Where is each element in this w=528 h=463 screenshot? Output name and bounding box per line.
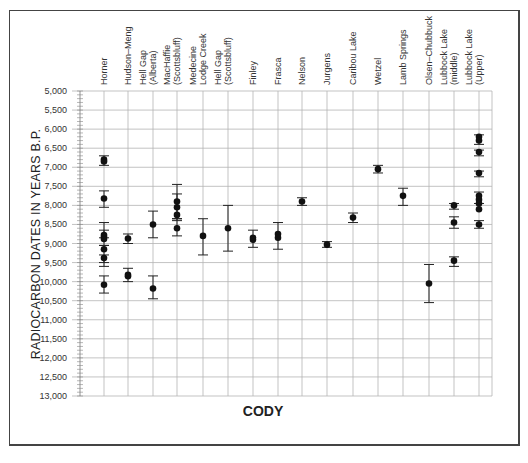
data-point: [101, 236, 108, 243]
y-tick-label: 6,500: [44, 143, 67, 153]
site-label-line: (Scottsbluff): [223, 37, 233, 85]
data-point: [476, 200, 483, 207]
data-point: [476, 206, 483, 213]
data-point: [476, 170, 483, 177]
site-label-line: Hudson–Meng: [123, 26, 133, 85]
site-label: Lubbock Lake(middle): [439, 29, 459, 85]
site-label: Horner: [99, 57, 109, 85]
data-point: [174, 212, 181, 219]
site-label-line: Lubbock Lake: [464, 29, 474, 85]
site-label-line: (middle): [449, 52, 459, 85]
data-point: [174, 204, 181, 211]
data-point: [250, 236, 257, 243]
data-point: [150, 221, 157, 228]
data-point: [150, 285, 157, 292]
site-label: Finley: [248, 60, 258, 85]
y-tick-label: 5,500: [44, 105, 67, 115]
data-point: [125, 235, 132, 242]
site-label: Hell Gap(Scottsbluff): [213, 37, 233, 85]
data-point: [451, 202, 458, 209]
site-label: MacHaffie(Scottsbluff): [162, 37, 182, 85]
data-point: [174, 198, 181, 205]
site-label: Olsen–Chubbuck: [424, 15, 434, 85]
site-label-line: Nelson: [297, 57, 307, 85]
site-label-line: Lubbock Lake: [439, 29, 449, 85]
data-point: [101, 246, 108, 253]
y-tick-label: 7,000: [44, 162, 67, 172]
site-label-line: Lodge Creek: [198, 33, 208, 85]
y-tick-label: 7,500: [44, 181, 67, 191]
y-tick-label: 9,500: [44, 258, 67, 268]
site-label-line: Frasca: [273, 57, 283, 85]
y-tick-label: 12,000: [39, 353, 67, 363]
site-label-line: Lamb Springs: [398, 29, 408, 85]
data-point: [350, 214, 357, 221]
x-axis-title: CODY: [243, 403, 284, 419]
data-point: [101, 281, 108, 288]
site-label-line: (Scottsbluff): [172, 37, 182, 85]
site-label: Hell Gap(Alberta): [138, 50, 158, 85]
site-label: MedecineLodge Creek: [188, 33, 208, 85]
data-point: [299, 198, 306, 205]
data-point: [476, 137, 483, 144]
y-tick-label: 5,000: [44, 86, 67, 96]
data-point: [476, 221, 483, 228]
site-label: Lubbock Lake(Upper): [464, 29, 484, 85]
y-tick-label: 11,500: [40, 334, 67, 344]
y-tick-label: 8,000: [44, 200, 67, 210]
site-label-line: Caribou Lake: [348, 31, 358, 85]
data-point: [101, 195, 108, 202]
y-tick-label: 12,500: [39, 372, 67, 382]
data-point: [125, 273, 132, 280]
y-tick-label: 11,000: [40, 315, 67, 325]
error-bars: [99, 135, 484, 303]
data-point: [426, 280, 433, 287]
site-label: Nelson: [297, 57, 307, 85]
site-label: Lamb Springs: [398, 29, 408, 85]
site-label-line: Horner: [99, 57, 109, 85]
site-label-line: Finley: [248, 60, 258, 85]
data-point: [451, 257, 458, 264]
site-label-line: (Upper): [474, 54, 484, 85]
site-label: Wetzel: [373, 58, 383, 85]
site-label-line: Olsen–Chubbuck: [424, 15, 434, 85]
data-point: [275, 234, 282, 241]
site-label-line: Hell Gap: [138, 50, 148, 85]
data-point: [101, 255, 108, 262]
radiocarbon-chart: 5,0005,5006,0006,5007,0007,5008,0008,500…: [0, 0, 528, 463]
data-point: [451, 219, 458, 226]
plot-grid: [72, 91, 492, 396]
site-label-line: MacHaffie: [162, 45, 172, 85]
data-point: [200, 233, 207, 240]
site-label: Caribou Lake: [348, 31, 358, 85]
site-label-line: Medecine: [188, 46, 198, 85]
y-tick-label: 6,000: [44, 124, 67, 134]
data-point: [174, 225, 181, 232]
site-label: Jurgens: [322, 52, 332, 85]
site-label-line: Jurgens: [322, 52, 332, 85]
data-point: [225, 225, 232, 232]
site-label: Frasca: [273, 57, 283, 85]
site-label-line: Wetzel: [373, 58, 383, 85]
data-points: [101, 133, 483, 291]
y-tick-label: 10,000: [39, 277, 67, 287]
data-point: [476, 149, 483, 156]
site-label: Hudson–Meng: [123, 26, 133, 85]
data-point: [324, 241, 331, 248]
data-point: [375, 166, 382, 173]
site-label-line: (Alberta): [148, 50, 158, 85]
y-axis-label: RADIOCARBON DATES IN YEARS B.P.: [29, 129, 43, 360]
y-tick-label: 10,500: [39, 296, 67, 306]
y-tick-label: 9,000: [44, 239, 67, 249]
y-tick-label: 8,500: [44, 219, 67, 229]
y-tick-label: 13,000: [39, 391, 67, 401]
site-column-labels: HornerHudson–MengHell Gap(Alberta)MacHaf…: [99, 15, 484, 85]
site-label-line: Hell Gap: [213, 50, 223, 85]
data-point: [101, 158, 108, 165]
data-point: [400, 193, 407, 200]
